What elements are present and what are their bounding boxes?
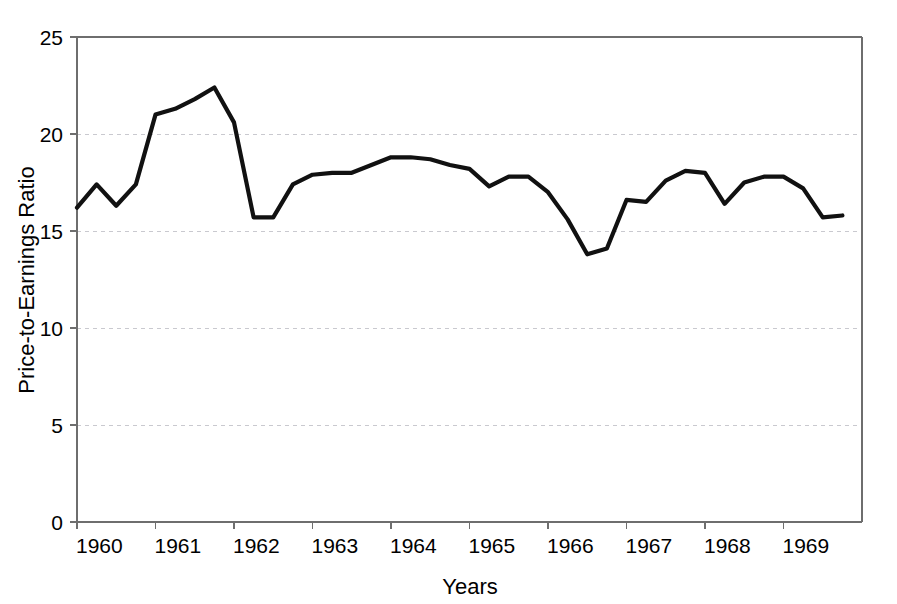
x-tick-label-1962: 1962 <box>233 534 280 557</box>
x-tick-label-1968: 1968 <box>704 534 751 557</box>
y-tick-label-25: 25 <box>40 26 63 49</box>
x-tick-label-1967: 1967 <box>626 534 673 557</box>
x-tick-label-1963: 1963 <box>312 534 359 557</box>
x-tick-label-1964: 1964 <box>390 534 437 557</box>
y-tick-label-20: 20 <box>40 123 63 146</box>
x-tick-label-1969: 1969 <box>783 534 830 557</box>
x-tick-label-1960: 1960 <box>76 534 123 557</box>
y-tick-label-5: 5 <box>51 414 63 437</box>
y-tick-label-15: 15 <box>40 220 63 243</box>
y-tick-label-0: 0 <box>51 511 63 534</box>
pe-ratio-chart: 0510152025 19601961196219631964196519661… <box>0 0 897 604</box>
y-axis-title: Price-to-Earnings Ratio <box>14 166 39 393</box>
x-tick-label-1961: 1961 <box>155 534 202 557</box>
x-axis-title: Years <box>442 574 497 599</box>
chart-background <box>0 0 897 604</box>
y-tick-label-10: 10 <box>40 317 63 340</box>
x-tick-label-1965: 1965 <box>469 534 516 557</box>
x-tick-label-1966: 1966 <box>547 534 594 557</box>
chart-svg: 0510152025 19601961196219631964196519661… <box>0 0 897 604</box>
